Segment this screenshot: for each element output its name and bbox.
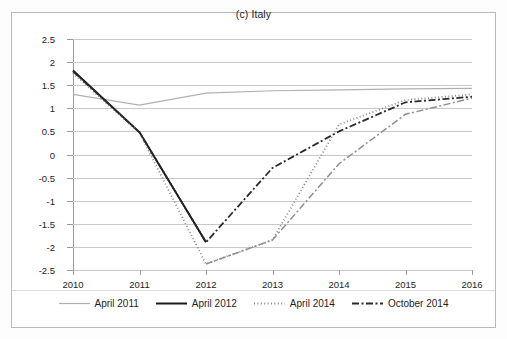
y-tick-label: 1.5 xyxy=(11,80,55,91)
legend-swatch-icon xyxy=(352,299,383,308)
x-tick-mark xyxy=(140,270,141,275)
x-tick-mark xyxy=(73,270,74,275)
x-tick-mark xyxy=(472,270,473,275)
y-tick-label: -2.5 xyxy=(11,265,55,276)
x-tick-label: 2016 xyxy=(447,279,497,290)
legend-label: April 2011 xyxy=(95,298,139,309)
x-tick-label: 2013 xyxy=(248,279,298,290)
x-tick-mark xyxy=(406,270,407,275)
legend-label: April 2012 xyxy=(192,298,237,309)
x-tick-label: 2012 xyxy=(181,279,231,290)
x-tick-mark xyxy=(339,270,340,275)
x-tick-label: 2010 xyxy=(48,279,98,290)
chart-legend: April 2011April 2012April 2014October 20… xyxy=(0,298,507,309)
chart-title: (c) Italy xyxy=(0,8,507,20)
x-tick-mark xyxy=(206,270,207,275)
series-line xyxy=(73,88,472,105)
legend-divider xyxy=(12,290,495,291)
legend-swatch-icon xyxy=(59,299,90,308)
series-line xyxy=(206,98,472,264)
x-tick-label: 2015 xyxy=(381,279,431,290)
legend-item[interactable]: April 2014 xyxy=(254,298,335,309)
legend-label: April 2014 xyxy=(290,298,335,309)
y-tick-label: -1.5 xyxy=(11,218,55,229)
y-tick-label: 0.5 xyxy=(11,126,55,137)
plot-area: 2.521.510.50-0.5-1-1.5-2-2.5 20102011201… xyxy=(60,39,472,270)
legend-label: October 2014 xyxy=(388,298,449,309)
legend-swatch-icon xyxy=(156,299,187,308)
y-tick-label: -0.5 xyxy=(11,172,55,183)
y-tick-label: 2.5 xyxy=(11,34,55,45)
y-tick-label: 0 xyxy=(11,149,55,160)
legend-item[interactable]: October 2014 xyxy=(352,298,449,309)
y-tick-label: 2 xyxy=(11,57,55,68)
x-tick-mark xyxy=(273,270,274,275)
series-lines xyxy=(60,39,472,270)
x-tick-label: 2014 xyxy=(314,279,364,290)
legend-swatch-icon xyxy=(254,299,285,308)
chart-figure: (c) Italy 2.521.510.50-0.5-1-1.5-2-2.5 2… xyxy=(0,0,507,339)
y-tick-label: -1 xyxy=(11,195,55,206)
series-line xyxy=(73,71,472,242)
y-tick-label: 1 xyxy=(11,103,55,114)
legend-item[interactable]: April 2012 xyxy=(156,298,237,309)
y-tick-label: -2 xyxy=(11,241,55,252)
legend-item[interactable]: April 2011 xyxy=(59,298,139,309)
x-tick-label: 2011 xyxy=(115,279,165,290)
